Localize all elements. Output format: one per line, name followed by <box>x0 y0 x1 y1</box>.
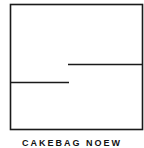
diagram-figure <box>0 0 144 148</box>
figure-caption: CAKEBAG NOEW <box>0 139 144 148</box>
outer-frame <box>11 5 143 130</box>
